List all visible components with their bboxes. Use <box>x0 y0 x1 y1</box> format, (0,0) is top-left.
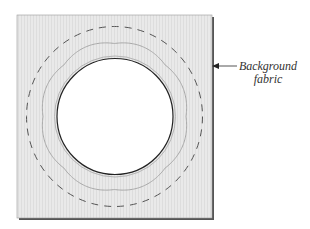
inner-circle-opening <box>57 59 173 175</box>
quilt-block-diagram <box>0 0 310 229</box>
callout-label-line1: Background <box>236 60 300 72</box>
callout-label-line2: fabric <box>236 73 300 85</box>
